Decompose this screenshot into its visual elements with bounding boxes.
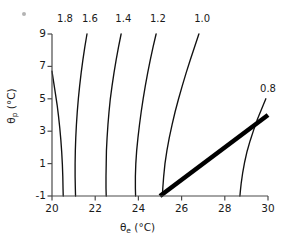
y-tick-label-9: 9 [24, 28, 46, 38]
x-tick-label-28: 28 [216, 203, 234, 213]
contour-label-1-0: 1.0 [194, 14, 210, 24]
x-tick-label-24: 24 [129, 203, 147, 213]
saturation-thick-line [160, 115, 268, 196]
contour-curves-group [52, 34, 266, 196]
contour-curve-1-4 [106, 34, 121, 196]
x-tick-label-22: 22 [86, 203, 104, 213]
x-tick-label-26: 26 [173, 203, 191, 213]
contour-chart-figure: 1.81.61.41.21.00.8 202224262830 -113579 … [0, 0, 288, 246]
contour-curve-1-2 [135, 34, 156, 196]
y-tick-label-3: 3 [24, 125, 46, 135]
contour-curve-1-8 [52, 71, 63, 196]
contour-label-1-8: 1.8 [57, 14, 73, 24]
y-tick-label-neg1: -1 [24, 190, 46, 200]
contour-label-1-6: 1.6 [82, 14, 98, 24]
x-axis-title: θe (°C) [0, 222, 275, 236]
contour-curve-0-8 [240, 99, 266, 196]
contour-label-1-4: 1.4 [115, 14, 131, 24]
y-tick-label-5: 5 [24, 93, 46, 103]
axes-spines-and-ticks [48, 34, 269, 201]
y-tick-label-7: 7 [24, 60, 46, 70]
contour-label-0-8: 0.8 [260, 84, 276, 94]
x-tick-label-30: 30 [259, 203, 277, 213]
contour-curve-1-6 [75, 34, 87, 196]
y-tick-label-1: 1 [24, 158, 46, 168]
contour-label-1-2: 1.2 [150, 14, 166, 24]
x-tick-label-20: 20 [43, 203, 61, 213]
y-axis-title: θp (°C) [6, 61, 20, 151]
